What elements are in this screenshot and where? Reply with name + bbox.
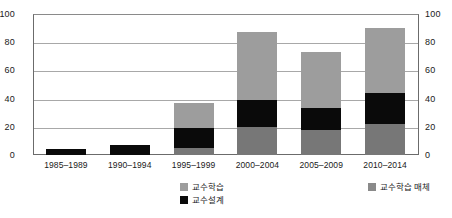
y-axis-left-tick-20: 20 xyxy=(5,123,15,132)
bar-segment xyxy=(237,32,277,100)
legend-item-teaching-learning-media: 교수학습 매체 xyxy=(368,182,430,192)
legend-label-teaching-learning-media: 교수학습 매체 xyxy=(380,182,430,192)
legend-swatch-icon-teaching-learning-media xyxy=(368,183,376,191)
y-axis-left-tick-0: 0 xyxy=(10,151,15,160)
bar-segment xyxy=(174,103,214,128)
y-axis-right-tick-80: 80 xyxy=(425,38,435,47)
x-axis-label: 2005–2009 xyxy=(289,160,353,170)
y-axis-left-tick-100: 100 xyxy=(0,10,15,19)
bar-segment xyxy=(174,148,214,155)
bars-layer xyxy=(34,14,417,155)
legend-item-instructional-design: 교수설계 xyxy=(180,195,224,205)
y-axis-left-tick-60: 60 xyxy=(5,66,15,75)
bar-segment xyxy=(46,149,86,155)
bar-segment xyxy=(237,100,277,127)
legend-left-column: 교수학습 교수설계 xyxy=(180,182,224,205)
y-axis-left-tick-40: 40 xyxy=(5,95,15,104)
legend-item-teaching-learning: 교수학습 xyxy=(180,182,224,192)
y-axis-right-tick-0: 0 xyxy=(425,151,430,160)
bar-segment xyxy=(237,127,277,155)
y-axis-right-tick-100: 100 xyxy=(425,10,441,19)
x-axis-label: 1995–1999 xyxy=(162,160,226,170)
bar-segment xyxy=(301,108,341,129)
bar-segment xyxy=(301,52,341,108)
y-axis-right-tick-60: 60 xyxy=(425,66,435,75)
bar-segment xyxy=(365,28,405,93)
legend-label-instructional-design: 교수설계 xyxy=(192,195,224,205)
x-axis-label: 1990–1994 xyxy=(98,160,162,170)
legend-right-column: 교수학습 매체 xyxy=(368,182,430,192)
legend-swatch-icon-instructional-design xyxy=(180,196,188,204)
stacked-bar-chart: 100 80 60 40 20 0 100 80 60 40 20 0 1985… xyxy=(0,0,452,218)
x-axis-label: 2000–2004 xyxy=(226,160,290,170)
y-axis-right-tick-40: 40 xyxy=(425,95,435,104)
bar-segment xyxy=(301,130,341,155)
legend-label-teaching-learning: 교수학습 xyxy=(192,182,224,192)
bar-segment xyxy=(365,124,405,155)
y-axis-right-tick-20: 20 xyxy=(425,123,435,132)
bar-segment xyxy=(174,128,214,148)
x-axis-label: 2010–2014 xyxy=(353,160,417,170)
x-axis-label: 1985–1989 xyxy=(34,160,98,170)
bar-segment xyxy=(110,145,150,155)
legend-swatch-icon-teaching-learning xyxy=(180,183,188,191)
y-axis-left-tick-80: 80 xyxy=(5,38,15,47)
bar-segment xyxy=(365,93,405,124)
